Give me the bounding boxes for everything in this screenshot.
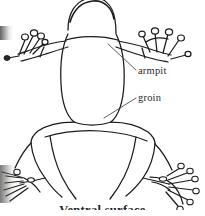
frog-left-hindlimb xyxy=(15,136,76,199)
frog-right-hindlimb xyxy=(110,137,172,199)
leader-line-armpit xyxy=(108,44,136,70)
frog-ventral-surface-figure: armpit groin Ventral surface xyxy=(0,0,205,216)
frog-left-hand-thumb-pad xyxy=(4,56,10,61)
frog-left-foot xyxy=(2,172,40,201)
frog-right-foot xyxy=(150,168,193,206)
leader-line-groin xyxy=(104,98,136,118)
label-armpit: armpit xyxy=(138,66,167,77)
frog-line-drawing xyxy=(0,0,205,216)
frog-head xyxy=(68,0,116,33)
figure-caption: Ventral surface xyxy=(0,204,205,216)
label-groin: groin xyxy=(138,93,161,104)
frog-left-hand-toepads xyxy=(22,30,48,45)
